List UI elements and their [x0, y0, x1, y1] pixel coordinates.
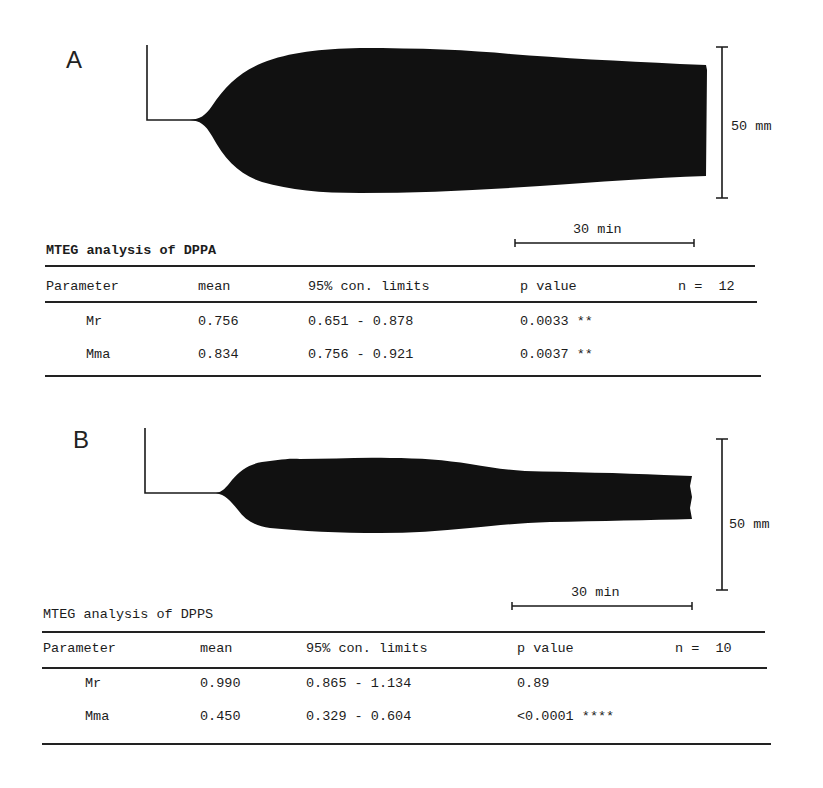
panel-b-vertical-scale-label: 50 mm: [729, 517, 770, 532]
table-b-title: MTEG analysis of DPPS: [43, 607, 213, 622]
table-b-header-mean: mean: [200, 641, 232, 656]
table-b-row-mma-limits: 0.329 - 0.604: [306, 709, 411, 724]
table-b-row-mr-pvalue: 0.89: [517, 676, 549, 691]
table-b-row-mr-mean: 0.990: [200, 676, 241, 691]
panel-b-vertical-scale: [716, 439, 728, 590]
table-b-header-pvalue: p value: [517, 641, 574, 656]
table-b-n-label: n = 10: [675, 641, 732, 656]
panel-b-axis: [145, 428, 220, 493]
panel-b-horizontal-scale-label: 30 min: [571, 585, 620, 600]
table-b-bottom-rule: [42, 743, 771, 745]
panel-b-horizontal-scale: [512, 602, 692, 610]
table-b-row-mma-parameter: Mma: [85, 709, 109, 724]
table-b-header-limits: 95% con. limits: [306, 641, 428, 656]
table-b-header-parameter: Parameter: [43, 641, 116, 656]
table-b-row-mma-mean: 0.450: [200, 709, 241, 724]
panel-b-mteg-shape: [216, 458, 692, 533]
table-b-row-mr-parameter: Mr: [85, 676, 101, 691]
panel-b-tracing: [0, 0, 823, 788]
table-b-top-rule: [42, 631, 765, 633]
table-b-row-mma-pvalue: <0.0001 ****: [517, 709, 614, 724]
table-b-header-rule: [42, 667, 767, 669]
table-b-row-mr-limits: 0.865 - 1.134: [306, 676, 411, 691]
